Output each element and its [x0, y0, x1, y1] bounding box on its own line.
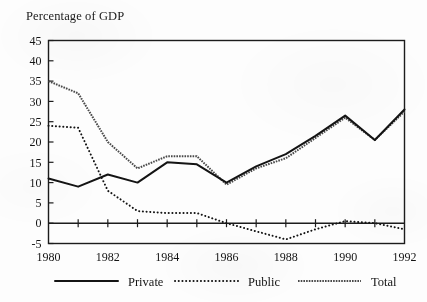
legend-label-private: Private — [128, 275, 164, 289]
legend-label-total: Total — [371, 275, 397, 289]
series-line-total — [49, 81, 405, 185]
legend-item-public: Public — [175, 275, 280, 289]
y-tick-label: 15 — [30, 156, 42, 170]
y-tick-label: 30 — [30, 95, 42, 109]
legend-item-total: Total — [298, 275, 397, 289]
legend-label-public: Public — [248, 275, 280, 289]
x-tick-label: 1986 — [215, 250, 239, 264]
y-tick-label: 10 — [30, 176, 42, 190]
x-tick-label: 1990 — [333, 250, 357, 264]
x-axis-ticks: 1980198219841986198819901992 — [37, 219, 417, 263]
y-tick-label: 5 — [36, 196, 42, 210]
y-axis-ticks: -5051015202530354045 — [30, 34, 54, 251]
x-tick-label: 1988 — [274, 250, 298, 264]
chart-figure: Percentage of GDP -5051015202530354045 1… — [0, 0, 427, 302]
series-line-private — [49, 110, 405, 187]
chart-plot: -5051015202530354045 1980198219841986198… — [0, 0, 427, 302]
x-tick-label: 1992 — [393, 250, 417, 264]
y-tick-label: 45 — [30, 34, 42, 48]
x-tick-label: 1982 — [96, 250, 120, 264]
legend-item-private: Private — [55, 275, 164, 289]
data-series-group — [49, 81, 405, 239]
x-tick-label: 1984 — [155, 250, 179, 264]
chart-axes — [49, 41, 405, 244]
chart-legend: PrivatePublicTotal — [55, 275, 397, 289]
y-tick-label: 40 — [30, 54, 42, 68]
y-tick-label: 35 — [30, 74, 42, 88]
y-tick-label: 25 — [30, 115, 42, 129]
x-tick-label: 1980 — [37, 250, 61, 264]
plot-frame — [49, 41, 405, 244]
y-tick-label: 0 — [36, 216, 42, 230]
y-tick-label: 20 — [30, 135, 42, 149]
